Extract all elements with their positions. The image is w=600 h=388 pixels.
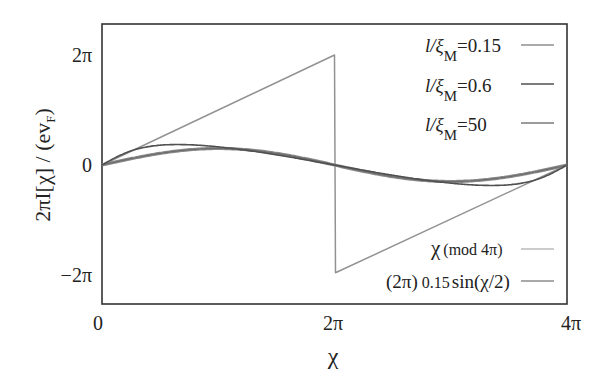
- y-tick-0: 0: [82, 154, 92, 176]
- legend: l/ξM=0.15 l/ξM=0.6 l/ξM=50 χ(mod 4π) (2π…: [386, 35, 554, 293]
- x-tick-4pi: 4π: [561, 312, 581, 334]
- svg-text:2πI[χ] / (evF): 2πI[χ] / (evF): [30, 108, 58, 222]
- y-tick-2pi: 2π: [72, 44, 92, 66]
- legend-item-0.6: l/ξM=0.6: [425, 75, 554, 104]
- legend-item-sine: (2π)0.15sin(χ/2): [386, 271, 554, 293]
- y-axis-label: 2πI[χ] / (evF): [30, 108, 58, 222]
- svg-text:χ(mod 4π): χ(mod 4π): [430, 236, 503, 260]
- chart: 2π 0 −2π 0 2π 4π χ 2πI[χ] / (evF) l/ξM=0…: [0, 0, 600, 388]
- legend-chi: χ: [430, 236, 441, 260]
- svg-text:l/ξM=50: l/ξM=50: [425, 114, 487, 143]
- legend-sine-prefix: (2π): [386, 271, 418, 293]
- x-tick-0: 0: [93, 312, 103, 334]
- legend-label-sub: M: [444, 48, 457, 64]
- legend-label-prefix: l/ξ: [425, 75, 445, 96]
- y-axis-label-main: 2πI[χ] / (ev: [30, 123, 55, 222]
- y-axis-label-sub: F: [43, 116, 58, 123]
- legend-sine-arg: χ/2): [479, 271, 510, 293]
- legend-label-suffix: =0.6: [457, 75, 491, 96]
- x-tick-2pi: 2π: [323, 312, 343, 334]
- y-axis-label-close: ): [30, 108, 55, 115]
- legend-label-sub: M: [444, 88, 457, 104]
- legend-item-mod: χ(mod 4π): [430, 236, 554, 260]
- legend-item-50: l/ξM=50: [425, 114, 554, 143]
- y-tick-neg-2pi: −2π: [61, 264, 92, 286]
- svg-text:l/ξM=0.15: l/ξM=0.15: [425, 35, 501, 64]
- legend-sine-amp: 0.15: [422, 274, 450, 291]
- legend-label-prefix: l/ξ: [425, 114, 445, 135]
- x-axis-label: χ: [327, 343, 339, 369]
- legend-sine-fn: sin(: [452, 271, 481, 293]
- svg-text:(2π)0.15sin(χ/2): (2π)0.15sin(χ/2): [386, 271, 510, 293]
- legend-label-suffix: =50: [457, 114, 487, 135]
- legend-label-prefix: l/ξ: [425, 35, 445, 56]
- legend-label-suffix: =0.15: [457, 35, 501, 56]
- legend-label-sub: M: [444, 127, 457, 143]
- legend-mod-text: (mod 4π): [443, 241, 502, 259]
- legend-item-0.15: l/ξM=0.15: [425, 35, 554, 64]
- svg-text:l/ξM=0.6: l/ξM=0.6: [425, 75, 492, 104]
